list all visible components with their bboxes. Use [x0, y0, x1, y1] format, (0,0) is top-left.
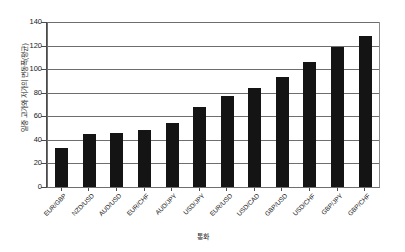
bar[interactable] — [303, 62, 316, 187]
y-tick-label: 120 — [10, 42, 45, 50]
bar-slot — [103, 22, 131, 187]
x-tick-label: GBP/USD — [263, 192, 288, 217]
bar[interactable] — [193, 107, 206, 187]
y-axis-tick-labels: 020406080100120140 — [10, 22, 45, 187]
y-tick-label: 100 — [10, 65, 45, 73]
x-tick-label: AUD/JPY — [154, 192, 178, 216]
y-tick-label: 140 — [10, 18, 45, 26]
bar-slot — [131, 22, 159, 187]
bar[interactable] — [248, 88, 261, 187]
y-tick-mark — [41, 140, 46, 141]
y-tick-mark — [41, 163, 46, 164]
plot-area — [47, 22, 380, 188]
x-tick-label: NZD/USD — [70, 192, 95, 217]
bar-slot — [76, 22, 104, 187]
bar-chart-figure: 일중 고가와 저가의 변동폭(평균) 020406080100120140 EU… — [0, 0, 405, 252]
x-tick-label: USD/CHF — [291, 192, 316, 217]
y-tick-mark — [41, 69, 46, 70]
bar[interactable] — [276, 77, 289, 187]
x-tick-label: GBP/CHF — [346, 192, 371, 217]
bar[interactable] — [55, 148, 68, 187]
bar[interactable] — [331, 47, 344, 187]
x-axis-title: 통화 — [0, 231, 405, 241]
x-tick-label: EUR/GBP — [43, 192, 68, 217]
bar-slot — [186, 22, 214, 187]
y-tick-mark — [41, 46, 46, 47]
bar-slot — [351, 22, 379, 187]
bar[interactable] — [110, 133, 123, 187]
bar[interactable] — [166, 123, 179, 187]
y-tick-mark — [41, 187, 46, 188]
bar[interactable] — [138, 130, 151, 187]
y-tick-label: 20 — [10, 160, 45, 168]
x-axis-tick-labels: EUR/GBPNZD/USDAUD/USDEUR/CHFAUD/JPYUSD/J… — [47, 191, 378, 227]
y-tick-mark — [41, 22, 46, 23]
y-tick-label: 80 — [10, 89, 45, 97]
bar[interactable] — [359, 36, 372, 187]
x-tick-label: EUR/CHF — [126, 192, 151, 217]
x-tick-label: USD/JPY — [182, 192, 206, 216]
y-tick-label: 0 — [10, 183, 45, 191]
x-tick-label: AUD/USD — [98, 192, 123, 217]
y-tick-mark — [41, 93, 46, 94]
x-tick-label: USD/CAD — [236, 192, 261, 217]
bar[interactable] — [221, 96, 234, 187]
bar-slot — [269, 22, 297, 187]
bar-slot — [324, 22, 352, 187]
bar-slot — [296, 22, 324, 187]
bar-slot — [158, 22, 186, 187]
bars-layer — [48, 22, 379, 187]
x-tick-label: EUR/USD — [208, 192, 233, 217]
bar-slot — [48, 22, 76, 187]
bar-slot — [213, 22, 241, 187]
bar-slot — [241, 22, 269, 187]
x-tick-label: GBP/JPY — [320, 192, 344, 216]
y-tick-mark — [41, 116, 46, 117]
y-tick-label: 40 — [10, 136, 45, 144]
bar[interactable] — [83, 134, 96, 187]
y-tick-label: 60 — [10, 113, 45, 121]
